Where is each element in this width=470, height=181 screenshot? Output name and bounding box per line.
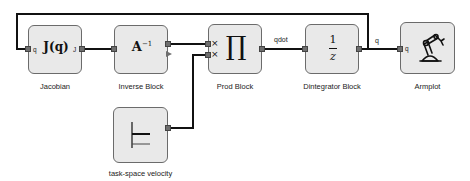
jacobian-label: Jacobian (28, 82, 82, 91)
wire-label-qdot: qdot (274, 36, 288, 43)
wire-velocity-prod (168, 55, 208, 128)
constant-source-icon (126, 120, 156, 150)
prod-label: Prod Block (198, 82, 272, 91)
integrator-denominator: z (306, 50, 360, 63)
inverse-output-port-1[interactable] (165, 41, 171, 47)
armplot-in-port-label: q (405, 45, 409, 52)
prod-symbol: ∏ (221, 29, 251, 63)
prod-op2: × (211, 49, 219, 59)
prod-op1: × (211, 38, 219, 48)
armplot-block[interactable]: q (400, 22, 455, 74)
integrator-block[interactable]: 1 z (305, 24, 359, 74)
inverse-symbol-base: A (132, 39, 142, 54)
diagram-canvas: J(q) q J Jacobian A−1 Inverse Block × × … (0, 0, 470, 181)
armplot-label: Armplot (400, 82, 455, 91)
armplot-input-port[interactable] (397, 46, 403, 52)
integrator-label: Dintegrator Block (292, 82, 372, 91)
inverse-symbol: A−1 (121, 39, 163, 54)
integrator-numerator: 1 (306, 33, 360, 46)
integrator-output-port[interactable] (356, 46, 362, 52)
inverse-label: Inverse Block (104, 82, 178, 91)
prod-output-port[interactable] (259, 46, 265, 52)
prod-input-port-2[interactable] (205, 52, 211, 58)
inverse-output-port-2[interactable] (166, 51, 172, 57)
integrator-input-port[interactable] (302, 46, 308, 52)
jacobian-symbol: J(q) (37, 40, 75, 54)
jacobian-block[interactable]: J(q) q J (28, 25, 82, 74)
inverse-block[interactable]: A−1 (114, 25, 168, 74)
jacobian-output-port[interactable] (79, 46, 85, 52)
robot-arm-icon (417, 31, 447, 63)
velocity-label: task-space velocity (98, 169, 183, 178)
prod-block[interactable]: × × ∏ (208, 24, 262, 74)
inverse-input-port[interactable] (111, 46, 117, 52)
wire-label-q: q (375, 37, 379, 44)
jacobian-in-port-label: q (33, 46, 37, 53)
velocity-block[interactable] (113, 107, 168, 163)
jacobian-out-port-label: J (73, 46, 76, 53)
jacobian-input-port[interactable] (25, 46, 31, 52)
prod-input-port-1[interactable] (205, 41, 211, 47)
fraction-bar (329, 48, 337, 49)
velocity-output-port[interactable] (165, 125, 171, 131)
inverse-symbol-sup: −1 (142, 40, 152, 48)
